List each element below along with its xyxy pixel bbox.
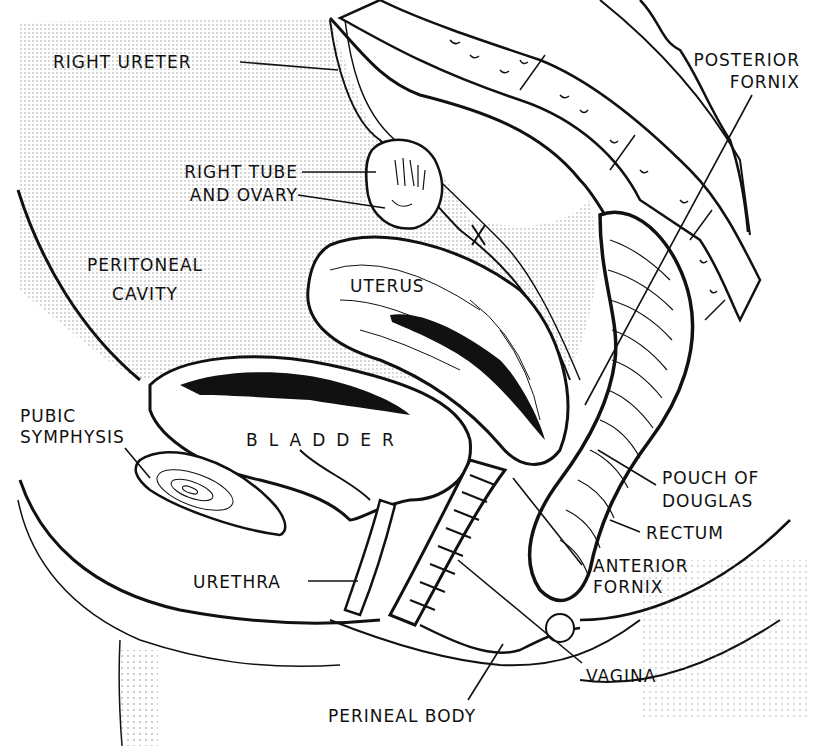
label-pouch-line2: DOUGLAS xyxy=(662,491,753,511)
label-vagina: VAGINA xyxy=(586,666,656,686)
label-posterior-fornix-line2: FORNIX xyxy=(640,72,800,92)
right-tube-ovary xyxy=(366,140,442,229)
label-right-ureter: RIGHT URETER xyxy=(53,52,192,72)
label-pubic-line1: PUBIC xyxy=(20,406,76,426)
diagram-artwork xyxy=(0,0,817,746)
label-bladder: BLADDER xyxy=(246,430,405,450)
label-pouch-line1: POUCH OF xyxy=(662,468,759,488)
label-rectum: RECTUM xyxy=(646,523,724,543)
label-anterior-fornix-line1: ANTERIOR xyxy=(593,556,689,576)
label-uterus: UTERUS xyxy=(350,276,425,296)
label-anterior-fornix-line2: FORNIX xyxy=(593,577,663,597)
label-urethra: URETHRA xyxy=(193,572,281,592)
label-peritoneal-line1: PERITONEAL xyxy=(55,255,235,275)
anatomy-diagram: RIGHT URETER RIGHT TUBE AND OVARY PERITO… xyxy=(0,0,817,746)
label-peritoneal-line2: CAVITY xyxy=(55,284,235,304)
label-right-tube-line1: RIGHT TUBE xyxy=(138,162,298,182)
label-perineal-body: PERINEAL BODY xyxy=(328,706,476,726)
label-right-tube-line2: AND OVARY xyxy=(138,185,298,205)
label-pubic-line2: SYMPHYSIS xyxy=(20,427,125,447)
label-posterior-fornix-line1: POSTERIOR xyxy=(640,50,800,70)
